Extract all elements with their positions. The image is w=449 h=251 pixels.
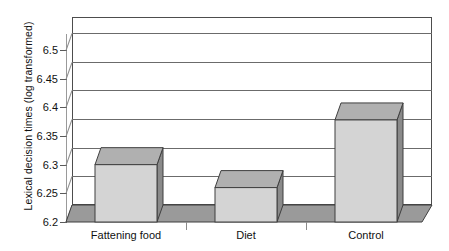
bar[interactable] bbox=[0, 0, 449, 251]
x-tick-mark bbox=[186, 222, 187, 230]
x-tick-label: Control bbox=[348, 229, 383, 241]
x-tick-label: Fattening food bbox=[91, 229, 161, 241]
bar-side-face bbox=[397, 103, 403, 222]
chart-root: Lexical decision times (log transformed)… bbox=[0, 0, 449, 251]
x-tick-mark bbox=[306, 222, 307, 230]
x-tick-label: Diet bbox=[236, 229, 256, 241]
bar-top-face bbox=[335, 103, 403, 120]
bar-front-face bbox=[335, 120, 397, 222]
plot-area bbox=[0, 0, 449, 251]
